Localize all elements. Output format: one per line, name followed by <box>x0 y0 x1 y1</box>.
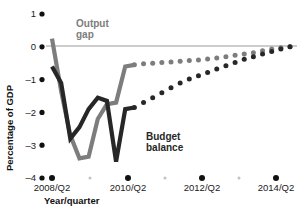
forecast-dot-budget-balance <box>141 100 146 105</box>
forecast-dot-budget-balance <box>260 52 265 57</box>
x-tick-label: 2010/Q2 <box>110 182 146 193</box>
chart-container: 10–1–2–3–4 2008/Q22010/Q22012/Q22014/Q2 … <box>0 0 308 222</box>
y-tick-dot <box>39 77 44 82</box>
y-axis-tick-labels: 10–1–2–3–4 <box>25 8 36 183</box>
y-tick-label: –1 <box>25 74 36 85</box>
forecast-dot-budget-balance <box>269 49 274 54</box>
forecast-dot-budget-balance <box>132 105 137 110</box>
forecast-dot-output-gap <box>205 56 210 61</box>
y-axis-title: Percentage of GDP <box>4 84 15 171</box>
y-tick-label: 1 <box>31 8 36 19</box>
forecast-dot-output-gap <box>178 59 183 64</box>
forecast-dot-output-gap <box>223 54 228 59</box>
forecast-dot-budget-balance <box>196 73 201 78</box>
forecast-dot-budget-balance <box>159 90 164 95</box>
forecast-dot-budget-balance <box>242 57 247 62</box>
forecast-dot-budget-balance <box>187 76 192 81</box>
x-axis-minor-tick-dots <box>89 177 241 180</box>
x-tick-dot <box>273 175 279 181</box>
x-minor-tick-dot <box>164 177 167 180</box>
forecast-dot-output-gap <box>150 61 155 66</box>
x-tick-dot <box>199 175 205 181</box>
chart-plot-area: 10–1–2–3–4 2008/Q22010/Q22012/Q22014/Q2 … <box>0 0 308 222</box>
forecast-dot-output-gap <box>242 52 247 57</box>
forecast-dot-output-gap <box>233 53 238 58</box>
x-tick-label: 2012/Q2 <box>184 182 220 193</box>
y-tick-label: –3 <box>25 140 36 151</box>
forecast-dot-output-gap <box>141 61 146 66</box>
x-tick-dot <box>125 175 131 181</box>
forecast-dot-output-gap <box>214 55 219 60</box>
forecast-dot-budget-balance <box>233 60 238 65</box>
forecast-dot-budget-balance <box>150 95 155 100</box>
forecast-dot-budget-balance <box>178 80 183 85</box>
series-label-output-gap: Output <box>76 18 109 29</box>
forecast-dot-budget-balance <box>251 54 256 59</box>
y-axis-tick-dots <box>39 11 44 180</box>
x-tick-label: 2014/Q2 <box>258 182 294 193</box>
forecast-dot-budget-balance <box>205 70 210 75</box>
forecast-dot-budget-balance <box>288 44 293 49</box>
series-label-output-gap-line2: gap <box>76 29 94 40</box>
forecast-dot-output-gap <box>196 57 201 62</box>
forecast-dot-output-gap <box>169 59 174 64</box>
y-tick-dot <box>39 110 44 115</box>
x-minor-tick-dot <box>238 177 241 180</box>
forecast-dot-budget-balance <box>169 85 174 90</box>
y-tick-dot <box>39 175 44 180</box>
series-label-budget-balance-line2: balance <box>146 142 184 153</box>
series-forecast-dots <box>132 44 293 110</box>
y-tick-dot <box>39 143 44 148</box>
forecast-dot-output-gap <box>159 60 164 65</box>
y-tick-dot <box>39 11 44 16</box>
forecast-dot-output-gap <box>132 62 137 67</box>
x-axis-title: Year/quarter <box>44 195 100 206</box>
x-axis-tick-labels: 2008/Q22010/Q22012/Q22014/Q2 <box>34 182 294 193</box>
x-minor-tick-dot <box>89 177 92 180</box>
forecast-dot-budget-balance <box>223 63 228 68</box>
forecast-dot-budget-balance <box>214 67 219 72</box>
y-tick-label: –2 <box>25 107 36 118</box>
x-tick-label: 2008/Q2 <box>34 182 70 193</box>
x-tick-dot <box>49 175 55 181</box>
series-solid-lines <box>52 39 134 162</box>
y-tick-label: 0 <box>31 41 36 52</box>
series-label-budget-balance: Budget <box>146 131 181 142</box>
forecast-dot-output-gap <box>187 58 192 63</box>
forecast-dot-budget-balance <box>278 47 283 52</box>
y-tick-dot <box>39 44 44 49</box>
